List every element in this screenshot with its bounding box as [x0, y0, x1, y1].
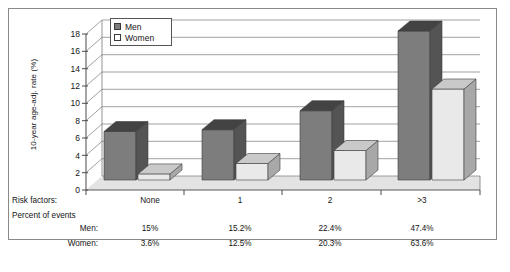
legend-label-men: Men [125, 22, 142, 32]
y-tick-label-6: 6 [58, 134, 80, 142]
y-tick-label-0: 0 [58, 186, 80, 194]
bar-women-gt3 [432, 79, 476, 180]
y-tick-label-14: 14 [58, 65, 80, 73]
y-tick-marks [82, 34, 88, 190]
y-tick-label-4: 4 [58, 152, 80, 160]
chart-legend: Men Women [110, 18, 172, 46]
risk-factors-label: Risk factors: [12, 196, 100, 205]
men-percent-2: 22.4% [290, 224, 370, 233]
y-tick-label-2: 2 [58, 169, 80, 177]
men-percent-1: 15.2% [200, 224, 280, 233]
y-tick-label-8: 8 [58, 117, 80, 125]
women-percent-0: 3.6% [110, 239, 190, 248]
men-percent-3: 47.4% [382, 224, 462, 233]
table-row-percent-header: Percent of events [10, 211, 496, 224]
women-percent-2: 20.3% [290, 239, 370, 248]
risk-factor-category-2: 2 [290, 196, 370, 205]
legend-swatch-women-icon [114, 34, 121, 41]
women-percent-3: 63.6% [382, 239, 462, 248]
y-tick-label-18: 18 [58, 30, 80, 38]
women-row-label: Women: [10, 239, 98, 248]
risk-factor-category-3: >3 [382, 196, 462, 205]
summary-table: Risk factors: None 1 2 >3 Percent of eve… [10, 196, 496, 254]
women-percent-1: 12.5% [200, 239, 280, 248]
legend-swatch-men-icon [114, 23, 121, 30]
y-tick-label-16: 16 [58, 47, 80, 55]
legend-item-men: Men [114, 21, 168, 32]
table-row-women: Women: 3.6% 12.5% 20.3% 63.6% [10, 239, 496, 254]
percent-of-events-label: Percent of events [12, 211, 100, 220]
bar-women-2 [334, 141, 378, 181]
risk-factor-category-0: None [110, 196, 190, 205]
chart-figure: 10-year age-adj. rate (%) 18 16 14 12 10… [0, 0, 510, 272]
x-tick-marks [86, 190, 480, 195]
men-percent-0: 15% [110, 224, 190, 233]
table-row-men: Men: 15% 15.2% 22.4% 47.4% [10, 224, 496, 239]
y-tick-label-12: 12 [58, 82, 80, 90]
risk-factor-category-1: 1 [200, 196, 280, 205]
y-axis-title: 10-year age-adj. rate (%) [29, 25, 38, 185]
legend-item-women: Women [114, 32, 168, 43]
legend-label-women: Women [125, 33, 154, 43]
y-tick-label-10: 10 [58, 99, 80, 107]
table-row-risk-factors: Risk factors: None 1 2 >3 [10, 196, 496, 211]
men-row-label: Men: [10, 224, 98, 233]
